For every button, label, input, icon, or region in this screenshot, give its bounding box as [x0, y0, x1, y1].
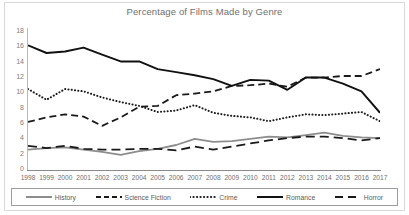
chart-legend: HistoryScience FictionCrimeRomanceHorror [11, 188, 398, 206]
y-tick-label: 0 [6, 165, 24, 172]
legend-label: Crime [219, 194, 237, 201]
legend-item-horror[interactable]: Horror [335, 193, 383, 201]
legend-item-romance[interactable]: Romance [257, 193, 315, 201]
legend-item-crime[interactable]: Crime [190, 193, 237, 201]
series-lines [28, 30, 380, 168]
y-tick-label: 16 [6, 42, 24, 49]
y-tick-label: 4 [6, 134, 24, 141]
legend-label: Romance [286, 194, 315, 201]
y-axis-tick-labels: 024681012141618 [4, 30, 24, 168]
legend-swatch-horror-icon [335, 193, 361, 201]
y-tick-label: 14 [6, 57, 24, 64]
legend-swatch-history-icon [26, 193, 52, 201]
y-tick-label: 12 [6, 73, 24, 80]
y-tick-label: 6 [6, 119, 24, 126]
legend-swatch-crime-icon [190, 193, 216, 201]
legend-item-history[interactable]: History [26, 193, 76, 201]
y-tick-label: 18 [6, 27, 24, 34]
chart-title: Percentage of Films Made by Genre [0, 6, 409, 17]
legend-label: Horror [364, 194, 383, 201]
x-axis-tick-labels: 1998199920002001200220032004200520062007… [28, 174, 380, 186]
y-tick-label: 8 [6, 103, 24, 110]
x-tick-label: 2017 [369, 174, 391, 181]
series-line-crime [28, 89, 380, 121]
plot-area [28, 30, 380, 168]
legend-label: History [55, 194, 76, 201]
legend-label: Science Fiction [125, 194, 171, 201]
series-line-romance [28, 45, 380, 112]
y-tick-label: 10 [6, 88, 24, 95]
series-line-horror [28, 137, 380, 151]
legend-swatch-romance-icon [257, 193, 283, 201]
legend-swatch-science-fiction-icon [96, 193, 122, 201]
x-axis-line [27, 170, 381, 171]
legend-item-science-fiction[interactable]: Science Fiction [96, 193, 171, 201]
y-tick-label: 2 [6, 149, 24, 156]
chart-card: Percentage of Films Made by Genre 024681… [0, 0, 409, 215]
